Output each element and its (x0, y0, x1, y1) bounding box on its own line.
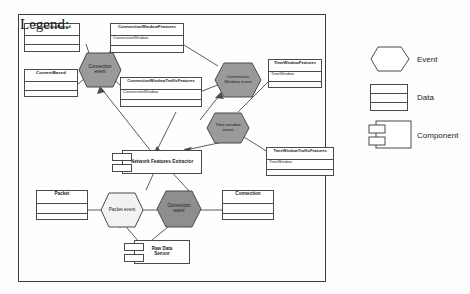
legend-data-row (371, 85, 407, 94)
event-label: Connection event (164, 204, 193, 214)
data-box-row (25, 82, 77, 91)
data-box-row (223, 204, 273, 214)
data-box-attribute: ConnectionWindow (121, 90, 201, 100)
diagram-canvas: ConnectionBased ContentBased ConnectionW… (0, 0, 470, 294)
data-box-title: ContentBased (25, 70, 77, 82)
data-box-row (37, 204, 87, 214)
data-box-title: ConnectionWindowFeatures (111, 24, 183, 36)
data-box-row (121, 100, 201, 108)
data-box-time-window-traffic-features[interactable]: TimeWindowTrafficFeatures TimeWindow (266, 147, 334, 176)
component-tab-lower (124, 254, 144, 262)
legend-label-data: Data (417, 93, 434, 102)
data-box-attribute: ConnectionWindow (111, 36, 183, 46)
data-box-connection-window-traffic-features[interactable]: ConnectionWindowTrafficFeatures Connecti… (120, 77, 202, 107)
component-tab-upper (112, 153, 132, 161)
data-box-title: Connection (223, 191, 273, 204)
event-label: Connection event (85, 65, 114, 75)
data-box-row (25, 91, 77, 99)
event-connection-window-event[interactable]: Connection Window event (214, 62, 262, 98)
data-box-attribute: TimeWindow (267, 160, 333, 170)
legend-data-row (371, 103, 407, 112)
component-body: Network Features Extractor (122, 150, 202, 174)
legend-event-icon (370, 46, 410, 76)
component-tab-upper (124, 243, 144, 251)
legend-component-icon (368, 120, 412, 154)
legend-data-icon (370, 84, 408, 111)
data-box-packet[interactable]: Packet (36, 190, 88, 220)
legend-data-row (371, 94, 407, 103)
data-box-content-based[interactable]: ContentBased (24, 69, 78, 97)
data-box-title: Packet (37, 191, 87, 204)
event-packet-event[interactable]: Packet event (100, 192, 144, 228)
component-raw-data-sensor[interactable]: Raw Data Sensor (124, 240, 190, 264)
component-tab-lower (112, 164, 132, 172)
event-label: Time window event (212, 123, 243, 132)
data-box-title: TimeWindowFeatures (269, 60, 321, 72)
data-box-row (25, 45, 79, 53)
event-time-window-event[interactable]: Time window event (206, 112, 250, 144)
component-label: Network Features Extractor (131, 159, 194, 164)
data-box-title: ConnectionWindowTrafficFeatures (121, 78, 201, 90)
event-connection-event-top[interactable]: Connection event (78, 52, 122, 88)
data-box-attribute: TimeWindow (269, 72, 321, 82)
data-box-row (223, 214, 273, 223)
data-box-row (267, 170, 333, 178)
data-box-row (25, 36, 79, 45)
event-label: Connection Window event (221, 75, 255, 84)
data-box-connection[interactable]: Connection (222, 190, 274, 220)
component-network-features-extractor[interactable]: Network Features Extractor (112, 150, 202, 174)
data-box-row (269, 82, 321, 90)
component-label: Raw Data Sensor (152, 247, 173, 257)
data-box-row (37, 214, 87, 223)
legend-label-component: Component (417, 131, 458, 140)
data-box-time-window-features[interactable]: TimeWindowFeatures TimeWindow (268, 59, 322, 88)
data-box-connection-window-features[interactable]: ConnectionWindowFeatures ConnectionWindo… (110, 23, 184, 53)
data-box-title: TimeWindowTrafficFeatures (267, 148, 333, 160)
event-connection-event-bottom[interactable]: Connection event (156, 190, 202, 228)
legend-label-event: Event (417, 55, 437, 64)
event-label: Packet event (106, 208, 139, 213)
legend-title: Legend: (20, 16, 69, 33)
